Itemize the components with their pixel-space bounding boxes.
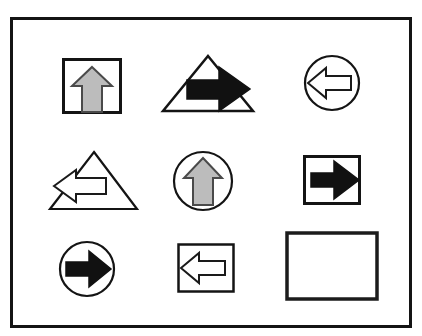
matrix-cell-row2-col3[interactable]	[303, 155, 361, 205]
matrix-cell-row3-col2[interactable]	[177, 243, 235, 293]
matrix-cell-row3-col1[interactable]	[58, 240, 116, 298]
matrix-cell-row1-col2[interactable]	[162, 54, 256, 114]
matrix-cell-row1-col3[interactable]	[303, 54, 361, 112]
empty-answer-box[interactable]	[287, 233, 377, 299]
puzzle-stage	[0, 0, 422, 336]
matrix-cell-row2-col2[interactable]	[172, 150, 234, 212]
matrix-cell-row3-col3[interactable]	[285, 231, 379, 301]
matrix-cell-row1-col1[interactable]	[62, 58, 122, 114]
matrix-grid	[0, 0, 422, 336]
matrix-cell-row2-col1[interactable]	[48, 150, 140, 212]
